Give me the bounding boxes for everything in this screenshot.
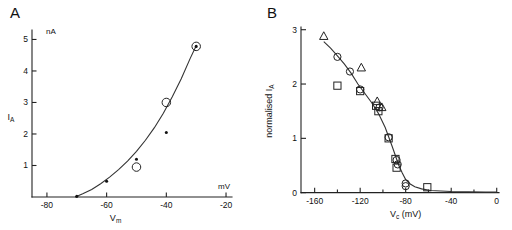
x-tick-label: -20: [220, 200, 233, 210]
data-point-filled-circle: [195, 45, 198, 48]
x-axis-title: Vm: [110, 213, 121, 224]
y-tick-label: 2: [23, 129, 28, 139]
data-point-filled-circle: [105, 180, 108, 183]
panel-b-data-points: [320, 32, 431, 191]
y-tick-label: 2: [292, 79, 297, 89]
x-tick-label: -60: [100, 200, 113, 210]
panel-a-fit-curve: [75, 46, 196, 197]
data-point-open-triangle: [357, 63, 365, 71]
y-tick-label: 5: [23, 34, 28, 44]
figure-container: A -80-60-40-2012345nAmVVmIA B -160-120-8…: [0, 0, 512, 230]
x-tick-label: -40: [445, 196, 458, 206]
panel-b-x-ticks: -160-120-80-400: [306, 188, 499, 206]
y-tick-label: 3: [23, 97, 28, 107]
x-tick-label: -40: [160, 200, 173, 210]
y-tick-label: 0: [292, 188, 297, 198]
panel-a: A -80-60-40-2012345nAmVVmIA: [0, 0, 256, 230]
x-axis-title: Vc (mV): [390, 209, 421, 220]
y-tick-label: 1: [292, 133, 297, 143]
panel-b-fit-curve: [324, 42, 497, 192]
panel-a-plot: -80-60-40-2012345nAmVVmIA: [0, 0, 256, 230]
data-point-filled-circle: [75, 195, 78, 198]
x-tick-label: 0: [494, 196, 499, 206]
data-point-filled-circle: [135, 158, 138, 161]
y-tick-label: 4: [23, 66, 28, 76]
panel-b: B -160-120-80-4000123Vc (mV)normalised I…: [256, 0, 512, 230]
data-point-open-circle: [132, 163, 141, 172]
panel-b-plot: -160-120-80-4000123Vc (mV)normalised IA: [256, 0, 512, 230]
x-tick-label: -160: [306, 196, 323, 206]
x-tick-label: -120: [352, 196, 369, 206]
y-axis-title: normalised IA: [264, 84, 275, 138]
data-point-open-circle: [334, 53, 341, 60]
panel-a-axes: [32, 30, 232, 197]
panel-b-y-ticks: 0123: [292, 25, 306, 198]
y-tick-label: 1: [23, 160, 28, 170]
panel-a-data-points: [75, 42, 200, 198]
data-point-filled-circle: [165, 131, 168, 134]
y-axis-title: IA: [8, 112, 16, 123]
data-point-open-triangle: [320, 32, 328, 40]
x-axis-unit-label: mV: [218, 182, 231, 191]
x-tick-label: -80: [400, 196, 413, 206]
panel-a-x-ticks: -80-60-40-20: [41, 193, 233, 211]
y-axis-unit-label: nA: [46, 27, 56, 36]
data-point-open-square: [334, 82, 341, 89]
x-tick-label: -80: [41, 200, 54, 210]
panel-a-y-ticks: 12345: [23, 34, 36, 170]
y-tick-label: 3: [292, 25, 297, 35]
